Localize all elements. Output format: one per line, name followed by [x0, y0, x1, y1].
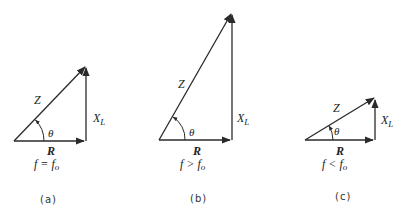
vertical-label-a: XL — [92, 111, 105, 127]
vertical-label-b: XL — [236, 111, 249, 127]
impedance-triangle-diagrams: Z θ R XL f = fo (a) Z θ R XL f > fo (b) … — [0, 0, 411, 219]
triangle-c: Z θ R XL f < fo (c) — [305, 98, 393, 202]
hypotenuse-label-c: Z — [333, 101, 340, 115]
condition-c: f < fo — [322, 157, 348, 172]
caption-c: (c) — [335, 191, 351, 202]
base-label-b: R — [192, 144, 201, 158]
base-label-a: R — [46, 144, 55, 158]
angle-label-b: θ — [189, 126, 195, 138]
impedance-vector-b — [159, 14, 231, 140]
angle-label-a: θ — [48, 127, 54, 139]
hypotenuse-label-b: Z — [178, 77, 185, 91]
hypotenuse-label-a: Z — [34, 93, 41, 107]
caption-a: (a) — [40, 194, 57, 205]
condition-a: f = fo — [34, 157, 60, 172]
caption-b: (b) — [190, 193, 207, 204]
vertical-label-c: XL — [380, 113, 393, 129]
condition-b: f > fo — [180, 157, 206, 172]
angle-arc-c — [329, 126, 333, 140]
triangle-b: Z θ R XL f > fo (b) — [159, 14, 249, 204]
angle-label-c: θ — [334, 125, 340, 137]
triangle-a: Z θ R XL f = fo (a) — [14, 67, 105, 205]
base-label-c: R — [335, 144, 344, 158]
angle-arc-b — [173, 117, 185, 140]
angle-arc-a — [36, 120, 45, 141]
